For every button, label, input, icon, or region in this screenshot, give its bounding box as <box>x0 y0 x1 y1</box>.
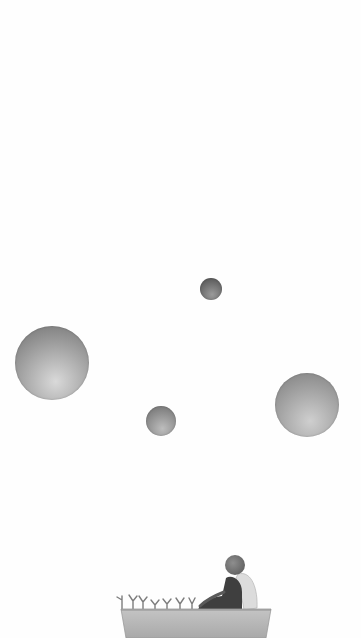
figure-head <box>225 555 245 575</box>
boat-illustration <box>0 0 361 638</box>
wallpaper-scene <box>0 0 361 638</box>
sprouts <box>117 595 195 609</box>
boat-hull <box>121 609 271 638</box>
